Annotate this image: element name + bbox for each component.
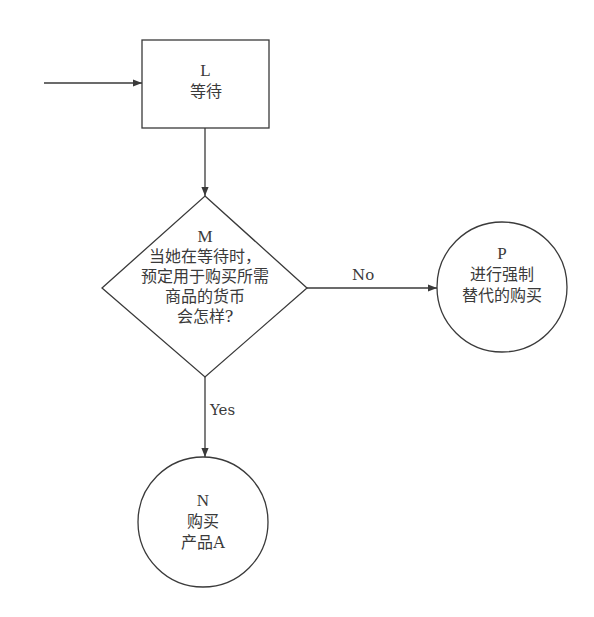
node-M-id: M bbox=[105, 227, 305, 247]
node-N-id: N bbox=[143, 490, 263, 511]
node-M-line-1: 当她在等待时， bbox=[105, 247, 305, 267]
node-N-line-1: 购买 bbox=[143, 511, 263, 532]
node-M-line-3: 商品的货币 bbox=[105, 287, 305, 307]
node-M-line-2: 预定用于购买所需 bbox=[105, 267, 305, 287]
node-L-line-1: 等待 bbox=[145, 81, 266, 102]
node-N-text: N 购买 产品A bbox=[143, 490, 263, 553]
node-P-id: P bbox=[442, 243, 562, 264]
node-P-line-1: 进行强制 bbox=[442, 264, 562, 285]
edge-label-yes: Yes bbox=[210, 401, 235, 419]
node-P-line-2: 替代的购买 bbox=[442, 285, 562, 306]
node-L-id: L bbox=[145, 60, 266, 81]
node-L-text: L 等待 bbox=[145, 60, 266, 102]
node-N-line-2: 产品A bbox=[143, 532, 263, 553]
node-P-text: P 进行强制 替代的购买 bbox=[442, 243, 562, 306]
node-M-text: M 当她在等待时， 预定用于购买所需 商品的货币 会怎样? bbox=[105, 227, 305, 327]
node-M-line-4: 会怎样? bbox=[105, 307, 305, 327]
edge-label-no: No bbox=[352, 266, 374, 284]
